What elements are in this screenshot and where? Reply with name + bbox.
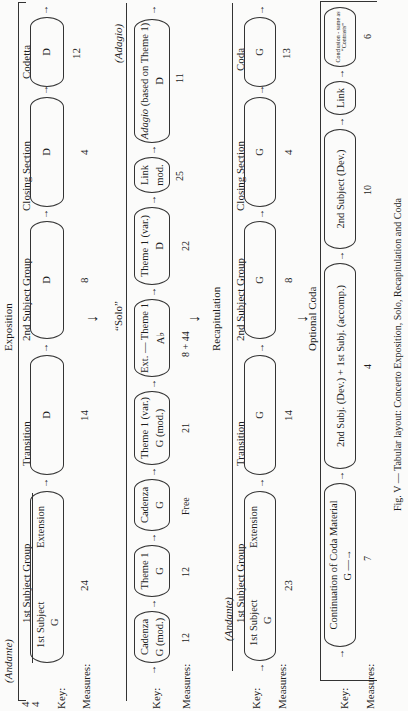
exposition-closing-key: D [41,98,52,206]
solo-measures-label: Measures: [180,664,192,709]
arrow-right-icon: → [148,533,158,543]
arrow-right-icon: → [336,117,346,127]
solo-adagio-measures: 11 [174,73,185,83]
arrow-right-icon: → [148,467,158,477]
solo-header-line [126,3,127,701]
arrow-right-icon: → [148,287,158,297]
exposition-measures-label: Measures: [80,664,92,709]
recapitulation-key-label: Key: [250,688,262,709]
exposition-title: Exposition [2,303,14,351]
solo-theme-1-var-b-key: D [154,208,165,284]
solo-tempo: (Adagio) [112,24,124,63]
solo-adagio-title-rest: (based on Theme 1) [139,23,150,109]
optional-coda-measures-label: Measures: [364,664,376,709]
optional-coda-title: Optional Coda [306,287,318,351]
exposition-header-tick-right [18,2,26,3]
optional-coda-2nd-subject-title: 2nd Subject (Dev.) [335,130,346,248]
optional-coda-continuation-key: G —→ [342,484,353,646]
recapitulation-coda-box: G [244,17,276,87]
arrow-right-icon: → [148,145,158,155]
arrow-right-icon: → [336,251,346,261]
exposition-codetta-key: D [41,18,52,86]
exposition-closing-box: D [30,97,64,207]
recapitulation-coda-key: G [254,18,265,86]
exposition-codetta-measures: 12 [70,48,82,59]
solo-adagio-key: D [154,20,165,142]
solo-theme-1-var-a-measures: 21 [180,423,191,433]
optional-coda-conclusion-title: Conclusion - same as “Contrasts” [335,8,347,66]
arrow-right-icon: → [148,665,158,675]
optional-coda-conclusion-box: Conclusion - same as “Contrasts” [324,7,356,67]
solo-link-title: Link [139,158,150,192]
exposition-key-label: Key: [55,688,67,709]
exposition-group-1-key: G [49,492,60,662]
arrow-right-icon: → [336,471,346,481]
solo-title: “Solo” [112,301,124,331]
exposition-2nd-subject-key: D [41,222,52,338]
recapitulation-header-line [232,3,233,671]
solo-theme-1-var-a-title: Theme 1 (var.) [139,392,150,464]
optional-coda-2nd-subject-measures: 10 [362,185,373,195]
optional-coda-continuation-box: Continuation of Coda Material G —→ [324,483,356,647]
solo-theme-1-key: G [154,546,165,596]
concerto-form-diagram: Exposition (Andante) 4 4 Key: Measures: … [0,0,408,711]
optional-coda-link-box: Link [324,81,356,115]
solo-theme-1-measures: 12 [180,567,191,577]
recapitulation-measures-label: Measures: [276,664,288,709]
recapitulation-coda-measures: 13 [280,48,292,59]
solo-cadenza-2-box: Cadenza G [134,479,170,531]
time-signature-bottom: 4 [30,702,40,708]
recapitulation-group-1-measures: 23 [282,580,294,591]
exposition-transition-box: D [30,355,64,475]
solo-adagio-title-italic: Adagio [139,109,150,139]
exposition-transition-measures: 14 [78,410,90,421]
exposition-group-1-measures: 24 [78,580,90,591]
recapitulation-transition-key: G [254,356,265,474]
arrow-right-icon: → [336,649,346,659]
solo-cadenza-2-title: Cadenza [139,480,150,530]
solo-ext-theme-1-measures: 8 + 44 [180,331,191,357]
exposition-closing-measures: 4 [78,150,90,156]
exposition-2nd-subject-box: D [30,221,64,339]
arrow-right-icon: → [40,343,50,353]
arrow-down-icon: ↓ [186,315,202,323]
solo-link-key: mod. [154,158,165,192]
optional-coda-continuation-title: Continuation of Coda Material [328,484,339,646]
arrow-right-icon: → [148,5,158,15]
exposition-transition-key: D [41,356,52,474]
arrow-right-icon: → [148,599,158,609]
arrow-right-icon: → [256,209,266,219]
recapitulation-transition-box: G [244,355,276,475]
optional-coda-link-title: Link [335,82,346,114]
exposition-codetta-box: D [30,17,64,87]
solo-cadenza-1-title: Cadenza [139,612,150,662]
recapitulation-transition-measures: 14 [282,410,294,421]
solo-cadenza-2-key: G [154,480,165,530]
arrow-right-icon: → [40,5,50,15]
recapitulation-group-1-box: 1st Subject Extension G [244,491,276,661]
arrow-right-icon: → [40,209,50,219]
recapitulation-2nd-subject-box: G [244,221,276,339]
recapitulation-title: Recapitulation [210,287,222,351]
solo-cadenza-2-measures: Free [180,497,191,515]
arrow-right-icon: → [256,663,266,673]
recapitulation-sub2: Extension [248,492,259,660]
solo-adagio-title: Adagio (based on Theme 1) [139,20,150,142]
time-signature: 4 4 [20,702,40,708]
solo-ext-theme-1-box: Ext. — Theme 1 A♭ [134,299,170,377]
optional-coda-dev-accomp-box: 2nd Subj. (Dev.) + 1st Subj. (accomp.) [324,263,356,469]
exposition-group-1-box: 1st Subject Extension G [30,491,64,663]
solo-theme-1-box: Theme 1 G [134,545,170,597]
figure-caption: Fig. V — Tabular layout: Concerto Exposi… [392,198,403,511]
solo-theme-1-var-b-measures: 22 [180,241,191,251]
solo-theme-1-var-b-title: Theme 1 (var.) [139,208,150,284]
optional-coda-2nd-subject-box: 2nd Subject (Dev.) [324,129,356,249]
solo-cadenza-1-measures: 12 [180,633,191,643]
solo-cadenza-1-box: Cadenza G (mod.) [134,611,170,663]
optional-coda-dev-accomp-title: 2nd Subj. (Dev.) + 1st Subj. (accomp.) [335,264,346,468]
recapitulation-closing-box: G [244,97,276,207]
solo-cadenza-1-key: G (mod.) [154,612,165,662]
recapitulation-closing-measures: 4 [282,150,294,156]
solo-key-label: Key: [150,688,162,709]
solo-theme-1-var-a-key: G (mod.) [154,392,165,464]
